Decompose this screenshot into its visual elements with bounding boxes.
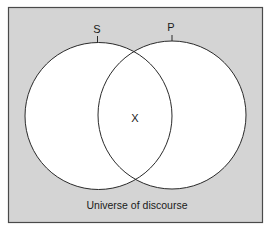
- set-s-label: S: [93, 23, 100, 35]
- venn-diagram: S P X Universe of discourse: [0, 0, 271, 232]
- set-p-label: P: [167, 21, 174, 33]
- universe-label: Universe of discourse: [87, 199, 188, 211]
- intersection-x-mark: X: [131, 112, 139, 124]
